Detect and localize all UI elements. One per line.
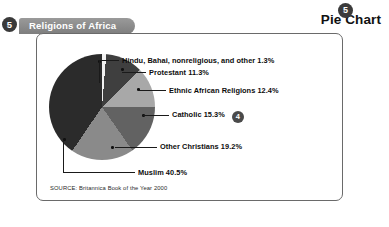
callout-label-protestant: Protestant 11.3% bbox=[149, 68, 209, 77]
leader-line-other-christians bbox=[115, 147, 157, 148]
corner-heading: 5 Pie Chart bbox=[321, 13, 381, 27]
figure-panel: Hindu, Bahai, nonreligious, and other 1.… bbox=[36, 33, 343, 201]
callout-label-hindu: Hindu, Bahai, nonreligious, and other 1.… bbox=[122, 56, 274, 65]
pie-chart-graphic bbox=[49, 54, 155, 160]
callout-label-ethnic: Ethnic African Religions 12.4% bbox=[169, 86, 279, 95]
callout-label-other-christians: Other Christians 19.2% bbox=[160, 142, 242, 151]
leader-line-muslim-vertical bbox=[63, 140, 64, 172]
callout-label-muslim: Muslim 40.5% bbox=[138, 168, 187, 177]
pie-circle bbox=[49, 54, 155, 160]
slice-dot-other-christians bbox=[111, 146, 114, 149]
leader-line-protestant bbox=[122, 72, 146, 73]
figure-number-badge: 5 bbox=[2, 17, 17, 32]
leader-line-hindu bbox=[99, 60, 119, 61]
callout-text-catholic: Catholic 15.3% bbox=[172, 110, 225, 119]
leader-line-catholic bbox=[143, 115, 169, 116]
callout-label-catholic: Catholic 15.3%4 bbox=[172, 110, 244, 123]
leader-line-hindu-vertical bbox=[99, 60, 100, 83]
leader-line-ethnic bbox=[138, 90, 166, 91]
slice-dot-protestant bbox=[121, 68, 124, 71]
numbered-circle-badge-inline-icon: 4 bbox=[232, 111, 244, 123]
leader-line-muslim bbox=[63, 172, 135, 173]
source-note: SOURCE: Britannica Book of the Year 2000 bbox=[50, 185, 167, 191]
figure-title-tab: Religions of Africa bbox=[19, 18, 135, 34]
numbered-circle-badge-icon: 5 bbox=[338, 3, 353, 18]
